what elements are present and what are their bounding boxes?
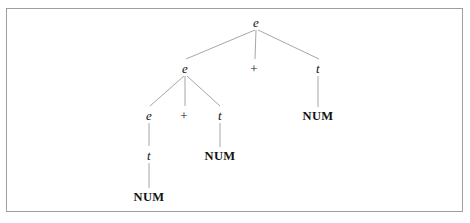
tree-node-nonterminal-n1: e <box>182 62 188 75</box>
tree-node-nonterminal-n0: e <box>253 16 259 29</box>
tree-edge-n0-n1 <box>186 30 255 59</box>
tree-node-operator-n5: + <box>180 109 187 122</box>
parse-tree-edges <box>0 0 470 223</box>
tree-node-nonterminal-n6: t <box>218 109 222 122</box>
tree-node-nonterminal-n4: e <box>146 109 152 122</box>
edge-group <box>149 30 319 188</box>
tree-node-terminal-n7: NUM <box>303 110 334 123</box>
tree-node-operator-n2: + <box>250 62 257 75</box>
tree-node-nonterminal-n8: t <box>147 149 151 162</box>
figure-canvas: ee+te+tNUMtNUMNUM <box>0 0 470 223</box>
tree-node-terminal-n9: NUM <box>205 150 236 163</box>
tree-edge-n1-n4 <box>150 76 184 106</box>
tree-edge-n0-n3 <box>258 30 319 59</box>
tree-node-nonterminal-n3: t <box>316 62 320 75</box>
tree-edge-n1-n6 <box>187 76 220 106</box>
tree-edge-n0-n2 <box>255 30 256 59</box>
tree-node-terminal-n10: NUM <box>134 191 165 204</box>
